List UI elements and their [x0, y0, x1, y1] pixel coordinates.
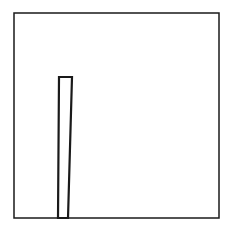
square-frame	[14, 13, 219, 218]
vertical-bar	[58, 77, 72, 218]
figure-canvas	[0, 0, 228, 225]
